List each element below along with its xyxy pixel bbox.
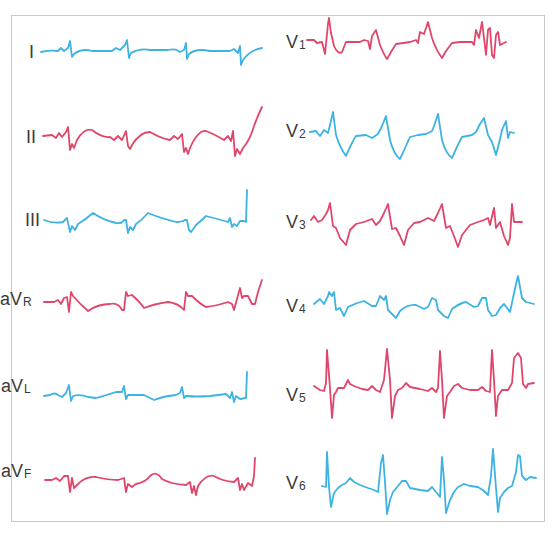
trace-aVF [45,458,255,495]
trace-aVL [44,372,247,402]
trace-V6 [322,449,536,514]
trace-V1 [307,18,506,59]
trace-V2 [310,112,514,159]
trace-I [41,40,262,65]
trace-V4 [314,276,534,318]
trace-aVR [44,280,262,312]
trace-III [44,190,247,233]
trace-II [43,107,262,156]
ecg-traces [0,0,556,539]
trace-V5 [314,349,534,418]
trace-V3 [311,203,522,247]
